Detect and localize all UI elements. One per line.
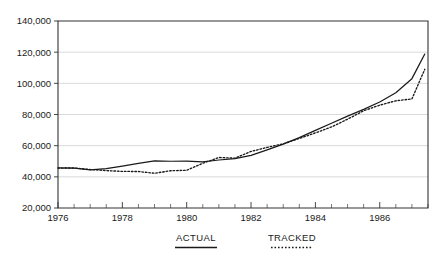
y-axis-tick-label: 60,000 xyxy=(22,140,51,151)
legend-label-actual: ACTUAL xyxy=(176,232,216,243)
x-axis-tick-label: 1976 xyxy=(47,212,68,223)
x-axis-tick-label: 1980 xyxy=(176,212,197,223)
x-axis-tick-label: 1986 xyxy=(369,212,390,223)
x-axis-tick-label: 1984 xyxy=(305,212,326,223)
y-axis-tick-label: 120,000 xyxy=(17,47,51,58)
legend: ACTUALTRACKED xyxy=(175,232,316,248)
chart-canvas: 20,00040,00060,00080,000100,000120,00014… xyxy=(0,0,447,259)
x-axis-tick-label: 1982 xyxy=(240,212,261,223)
x-axis-tick-label: 1978 xyxy=(112,212,133,223)
y-axis-labels-group: 20,00040,00060,00080,000100,000120,00014… xyxy=(17,15,51,213)
y-axis-tick-label: 80,000 xyxy=(22,109,51,120)
y-axis-tick-label: 40,000 xyxy=(22,171,51,182)
legend-label-tracked: TRACKED xyxy=(268,232,316,243)
y-axis-tick-label: 140,000 xyxy=(17,15,51,26)
gridlines-group xyxy=(58,52,428,177)
x-axis-labels-group: 197619781980198219841986 xyxy=(47,212,390,223)
series-line-actual xyxy=(58,54,425,170)
line-chart: 20,00040,00060,00080,000100,000120,00014… xyxy=(0,0,447,259)
y-axis-tick-label: 100,000 xyxy=(17,78,51,89)
y-axis-ticks-group xyxy=(54,21,58,208)
